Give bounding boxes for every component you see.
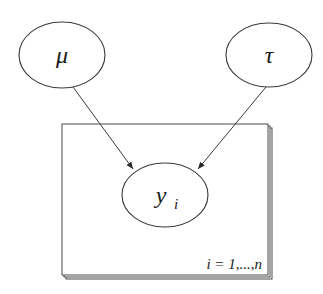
plate-diagram: i = 1,...,n μ τ y i	[0, 0, 323, 294]
node-y-label: y	[154, 182, 167, 208]
plate-label: i = 1,...,n	[206, 256, 262, 272]
node-mu-label: μ	[55, 42, 68, 68]
node-tau-label: τ	[265, 42, 275, 68]
node-tau: τ	[226, 23, 312, 87]
node-y: y i	[122, 163, 208, 227]
node-mu: μ	[19, 22, 105, 88]
node-y-subscript: i	[174, 196, 178, 212]
